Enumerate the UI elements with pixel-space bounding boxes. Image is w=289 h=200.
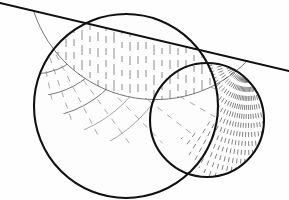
- geometric-figure-svg: [0, 0, 289, 200]
- figure-root: [0, 0, 289, 200]
